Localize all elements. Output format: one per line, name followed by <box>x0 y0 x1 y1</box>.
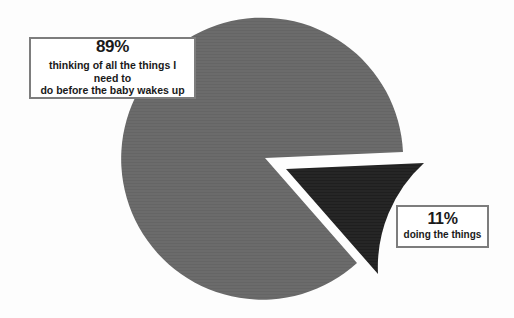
callout-major-line-2: do before the baby wakes up <box>37 84 188 97</box>
pie-chart-figure: 89% thinking of all the things I need to… <box>0 0 514 318</box>
callout-major-slice[interactable]: 89% thinking of all the things I need to… <box>29 37 196 99</box>
callout-minor-slice[interactable]: 11% doing the things <box>396 205 489 248</box>
callout-minor-description: doing the things <box>404 229 482 241</box>
callout-major-percent: 89% <box>96 37 129 57</box>
callout-major-description: thinking of all the things I need to do … <box>37 59 188 97</box>
callout-minor-percent: 11% <box>427 210 457 228</box>
callout-major-line-1: thinking of all the things I need to <box>37 59 188 85</box>
